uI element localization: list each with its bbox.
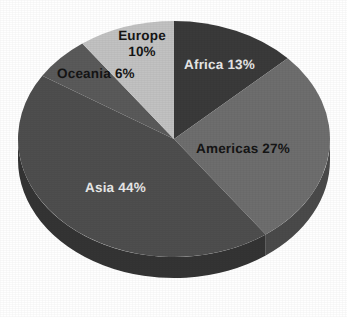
pie-chart: Europe 10% Africa 13% Americas 27% Asia …: [0, 0, 347, 317]
pie-slices: [18, 21, 330, 257]
pie-chart-canvas: [0, 0, 347, 317]
